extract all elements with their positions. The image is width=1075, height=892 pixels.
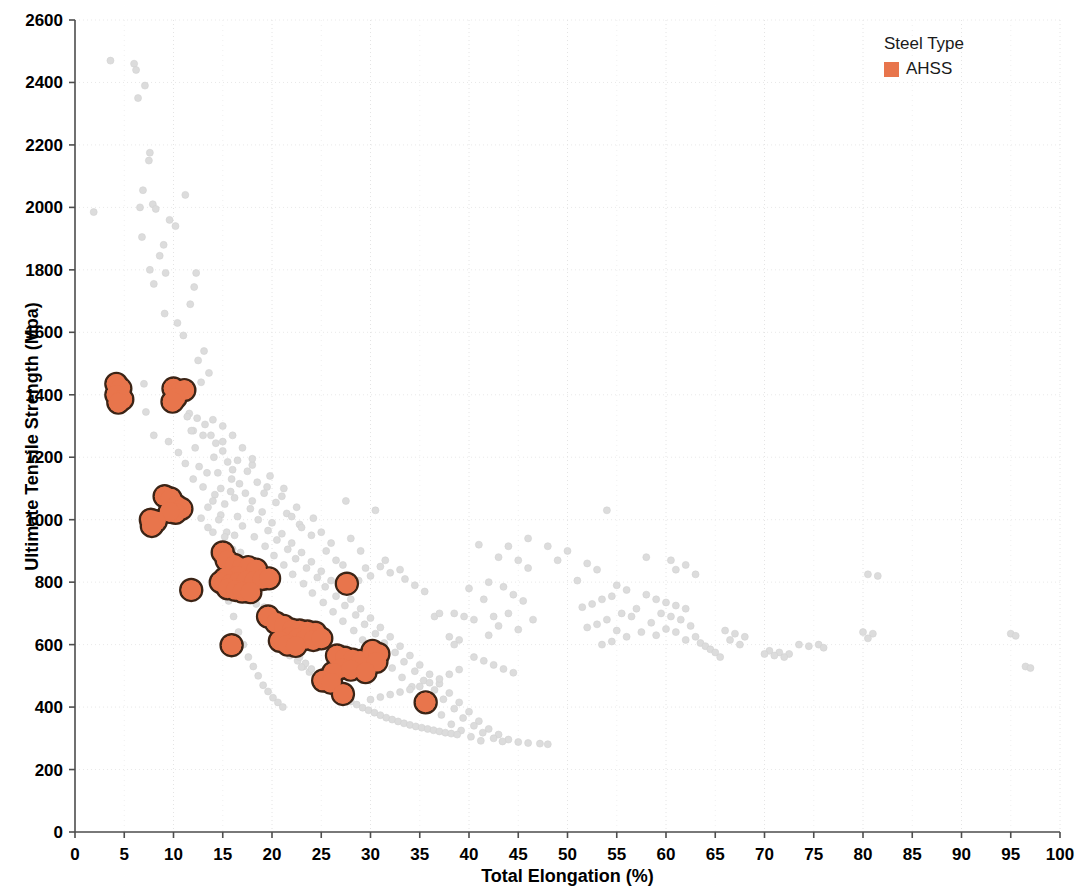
ahss-data-points <box>105 373 436 714</box>
x-tick-label: 10 <box>164 846 183 863</box>
y-tick-label: 600 <box>0 636 63 653</box>
axis-spines <box>69 20 1060 838</box>
x-tick-label: 70 <box>755 846 774 863</box>
x-tick-label: 60 <box>657 846 676 863</box>
scatter-chart: 0200400600800100012001400160018002000220… <box>0 0 1075 892</box>
y-tick-label: 2000 <box>0 199 63 216</box>
x-tick-label: 5 <box>120 846 129 863</box>
x-tick-label: 85 <box>903 846 922 863</box>
x-tick-label: 100 <box>1046 846 1074 863</box>
x-tick-label: 40 <box>460 846 479 863</box>
y-tick-label: 0 <box>0 824 63 841</box>
x-tick-label: 25 <box>312 846 331 863</box>
x-tick-label: 0 <box>70 846 79 863</box>
legend-title: Steel Type <box>884 33 964 56</box>
x-axis-title: Total Elongation (%) <box>75 866 1060 887</box>
legend-swatch-icon <box>884 62 899 77</box>
y-axis-title: Ultimate Tensile Strength (Mpa) <box>22 287 43 587</box>
x-tick-label: 95 <box>1001 846 1020 863</box>
legend-entry-ahss[interactable]: AHSS <box>884 58 964 81</box>
y-tick-label: 2600 <box>0 12 63 29</box>
x-tick-label: 30 <box>361 846 380 863</box>
plot-canvas <box>0 0 1075 892</box>
legend: Steel Type AHSS <box>884 33 964 81</box>
y-tick-label: 2400 <box>0 74 63 91</box>
x-tick-label: 45 <box>509 846 528 863</box>
y-tick-label: 400 <box>0 699 63 716</box>
x-tick-label: 20 <box>263 846 282 863</box>
y-tick-label: 1800 <box>0 261 63 278</box>
x-tick-label: 15 <box>213 846 232 863</box>
x-tick-label: 50 <box>558 846 577 863</box>
x-tick-label: 35 <box>410 846 429 863</box>
x-tick-label: 80 <box>854 846 873 863</box>
x-tick-label: 75 <box>804 846 823 863</box>
y-tick-label: 2200 <box>0 136 63 153</box>
x-tick-label: 90 <box>952 846 971 863</box>
y-tick-label: 200 <box>0 761 63 778</box>
x-tick-label: 65 <box>706 846 725 863</box>
legend-entry-label: AHSS <box>906 58 952 81</box>
x-tick-label: 55 <box>607 846 626 863</box>
